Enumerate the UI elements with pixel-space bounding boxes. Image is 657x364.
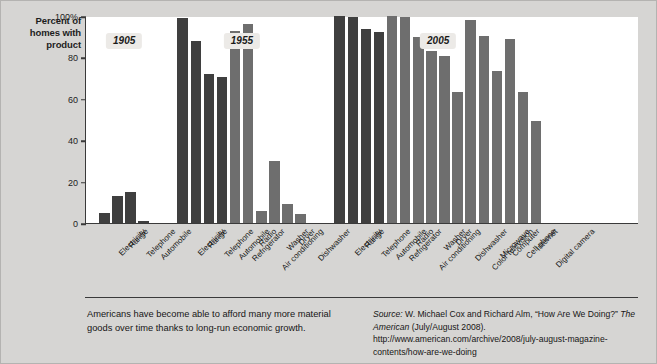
- bar: [452, 92, 463, 223]
- x-tick-label: Digital camera: [554, 227, 597, 270]
- caption-text: Americans have become able to afford man…: [87, 308, 349, 335]
- x-tick-label: Range: [127, 227, 150, 250]
- y-tick-mark: [81, 16, 86, 18]
- bar: [387, 16, 398, 223]
- bar: [295, 214, 306, 223]
- bar: [230, 31, 241, 224]
- bar: [334, 16, 345, 223]
- bar: [256, 211, 267, 223]
- bar: [217, 77, 228, 223]
- bar: [492, 71, 503, 223]
- year-label-1955: 1955: [224, 33, 260, 49]
- bar: [400, 17, 411, 223]
- bar: [243, 24, 254, 223]
- bar: [282, 204, 293, 223]
- bar: [479, 36, 490, 223]
- x-axis-labels: ElectricityRangeTelephoneAutomobileElect…: [85, 225, 638, 297]
- bar: [204, 74, 215, 223]
- year-label-1905: 1905: [106, 33, 142, 49]
- y-tick-mark: [81, 140, 86, 142]
- bar: [177, 18, 188, 223]
- source-authors: W. Michael Cox and Richard Alm, “How Are…: [403, 309, 621, 319]
- y-tick-mark: [81, 58, 86, 60]
- figure-container: Percent of homes with product 0204060801…: [0, 0, 657, 364]
- bar: [361, 29, 372, 223]
- year-label-2005: 2005: [420, 33, 456, 49]
- x-tick-label: Range: [206, 227, 229, 250]
- bar: [125, 192, 136, 223]
- bar: [112, 196, 123, 223]
- source-text: Source: W. Michael Cox and Richard Alm, …: [373, 308, 645, 358]
- bar: [439, 56, 450, 223]
- bar: [465, 20, 476, 223]
- source-label: Source:: [373, 309, 403, 319]
- source-url: (July/August 2008). http://www.american.…: [373, 322, 608, 357]
- plot-area: 020406080100%: [85, 17, 638, 224]
- caption-divider: [85, 297, 638, 298]
- bar: [348, 17, 359, 223]
- bar: [413, 37, 424, 223]
- bar: [138, 221, 149, 223]
- y-tick-mark: [81, 99, 86, 101]
- bar: [374, 32, 385, 223]
- bar: [191, 41, 202, 223]
- bar: [426, 51, 437, 223]
- bar: [505, 39, 516, 223]
- bar: [531, 121, 542, 223]
- x-tick-label: Range: [363, 227, 386, 250]
- bar: [99, 213, 110, 223]
- bar: [518, 92, 529, 223]
- y-tick-mark: [81, 182, 86, 184]
- bar: [269, 161, 280, 223]
